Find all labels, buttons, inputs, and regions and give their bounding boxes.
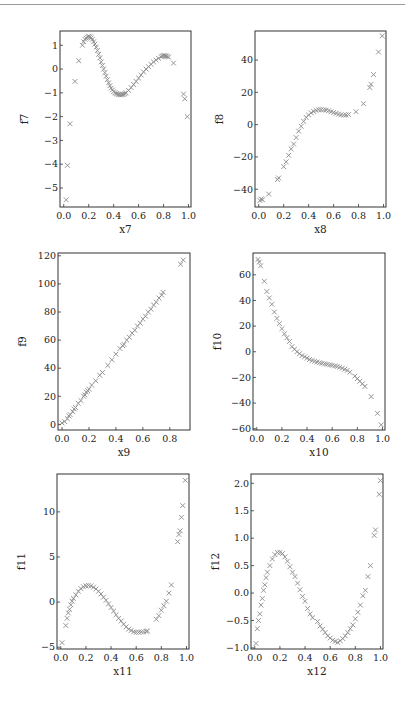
y-tick-label: −20 xyxy=(233,151,253,162)
y-tick-label: 0.0 xyxy=(234,587,249,598)
y-tick-label: −3 xyxy=(44,135,58,146)
x-marker-icon xyxy=(138,321,143,326)
x-marker-icon xyxy=(275,550,280,555)
y-tick-label: 100 xyxy=(38,278,56,289)
x-marker-icon xyxy=(149,307,154,312)
y-axis-label: f7 xyxy=(18,114,30,125)
y-tick-label: −20 xyxy=(231,372,251,383)
x-axis-label: x11 xyxy=(113,665,132,677)
x-marker-icon xyxy=(375,411,380,416)
x-marker-icon xyxy=(76,58,81,63)
x-tick-label: 0.2 xyxy=(272,652,287,663)
x-tick-label: 1.0 xyxy=(375,433,390,444)
x-tick-label: 0.8 xyxy=(348,652,363,663)
x-marker-icon xyxy=(285,559,290,564)
x-tick-label: 0.8 xyxy=(154,652,169,663)
y-tick-label: 40 xyxy=(241,54,253,65)
x-marker-icon xyxy=(180,503,185,508)
y-tick-label: 1.0 xyxy=(234,532,249,543)
x-marker-icon xyxy=(254,641,259,646)
x-tick-label: 0.8 xyxy=(156,210,171,221)
x-marker-icon xyxy=(372,533,377,538)
x-marker-icon xyxy=(354,109,359,114)
x-marker-icon xyxy=(143,314,148,319)
x-marker-icon xyxy=(289,146,294,151)
x-tick-label: 0.8 xyxy=(351,210,366,221)
x-marker-icon xyxy=(267,563,272,568)
y-tick-label: 0 xyxy=(49,596,55,607)
x-marker-icon xyxy=(154,58,159,63)
x-marker-icon xyxy=(380,33,385,38)
x-marker-icon xyxy=(63,623,68,628)
x-marker-icon xyxy=(270,557,275,562)
x-tick-label: 0.6 xyxy=(325,433,340,444)
x-marker-icon xyxy=(181,258,186,263)
x-marker-icon xyxy=(87,387,92,392)
x-tick-label: 0.0 xyxy=(54,433,69,444)
x-marker-icon xyxy=(283,554,288,559)
x-marker-icon xyxy=(93,378,98,383)
x-marker-icon xyxy=(378,478,383,483)
x-tick-label: 0.2 xyxy=(78,652,93,663)
x-marker-icon xyxy=(78,398,83,403)
x-tick-label: 0.2 xyxy=(276,210,291,221)
x-marker-icon xyxy=(122,342,127,347)
x-marker-icon xyxy=(258,263,263,268)
y-tick-label: −0.5 xyxy=(226,615,249,626)
x-marker-icon xyxy=(299,124,304,129)
x-axis-label: x10 xyxy=(309,446,328,458)
x-tick-label: 0.6 xyxy=(131,210,146,221)
x-marker-icon xyxy=(260,596,265,601)
x-tick-label: 0.4 xyxy=(108,433,123,444)
y-tick-label: 1 xyxy=(52,40,58,51)
x-marker-icon xyxy=(300,594,305,599)
x-marker-icon xyxy=(134,79,139,84)
x-marker-icon xyxy=(78,586,83,591)
x-marker-icon xyxy=(323,630,328,635)
y-tick-label: 10 xyxy=(43,506,55,517)
x-marker-icon xyxy=(361,101,366,106)
x-marker-icon xyxy=(255,626,260,631)
x-marker-icon xyxy=(68,121,73,126)
x-tick-label: 0.0 xyxy=(249,433,264,444)
x-marker-icon xyxy=(320,627,325,632)
x-marker-icon xyxy=(99,592,104,597)
x-tick-label: 0.0 xyxy=(251,210,266,221)
x-tick-label: 0.4 xyxy=(301,210,316,221)
x-marker-icon xyxy=(100,370,105,375)
x-marker-icon xyxy=(264,575,269,580)
x-marker-icon xyxy=(362,384,367,389)
x-marker-icon xyxy=(363,588,368,593)
y-axis-label: f11 xyxy=(15,553,27,570)
x-marker-icon xyxy=(318,624,323,629)
x-axis-label: x7 xyxy=(119,223,132,235)
x-marker-icon xyxy=(154,300,159,305)
x-marker-icon xyxy=(315,619,320,624)
x-tick-label: 0.8 xyxy=(350,433,365,444)
y-tick-label: 0 xyxy=(247,119,253,130)
x-marker-icon xyxy=(178,528,183,533)
x-tick-label: 0.4 xyxy=(298,652,313,663)
x-marker-icon xyxy=(257,611,262,616)
x-marker-icon xyxy=(366,574,371,579)
x-marker-icon xyxy=(368,563,373,568)
x-marker-icon xyxy=(347,370,352,375)
x-tick-label: 1.0 xyxy=(181,210,196,221)
x-tick-label: 1.0 xyxy=(373,652,388,663)
subplot-p12: 0.00.20.40.60.81.0−1.0−0.50.00.51.01.52.… xyxy=(209,474,388,677)
x-axis-label: x9 xyxy=(118,446,131,458)
x-tick-label: 1.0 xyxy=(376,210,391,221)
scatter-points xyxy=(254,478,383,646)
x-marker-icon xyxy=(358,603,363,608)
y-tick-label: 20 xyxy=(239,320,251,331)
subplot-p9: 0.00.20.40.60.8020406080100120x9f9 xyxy=(16,250,190,458)
x-marker-icon xyxy=(371,72,376,77)
x-marker-icon xyxy=(109,357,114,362)
y-axis-label: f12 xyxy=(209,553,221,570)
x-marker-icon xyxy=(185,114,190,119)
y-tick-label: −2 xyxy=(44,111,58,122)
x-marker-icon xyxy=(101,67,106,72)
x-marker-icon xyxy=(159,608,164,613)
subplot-p11: 0.00.20.40.60.81.0−50510x11f11 xyxy=(15,474,194,677)
x-marker-icon xyxy=(305,606,310,611)
